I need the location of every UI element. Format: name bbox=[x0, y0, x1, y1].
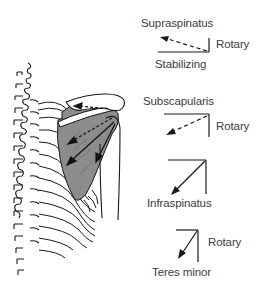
resultant-solid-arrow bbox=[183, 231, 197, 252]
arrowhead-icon bbox=[178, 249, 186, 259]
teres-minor-rotary-label: Rotary bbox=[208, 236, 241, 249]
teres-minor-label: Teres minor bbox=[152, 266, 211, 279]
